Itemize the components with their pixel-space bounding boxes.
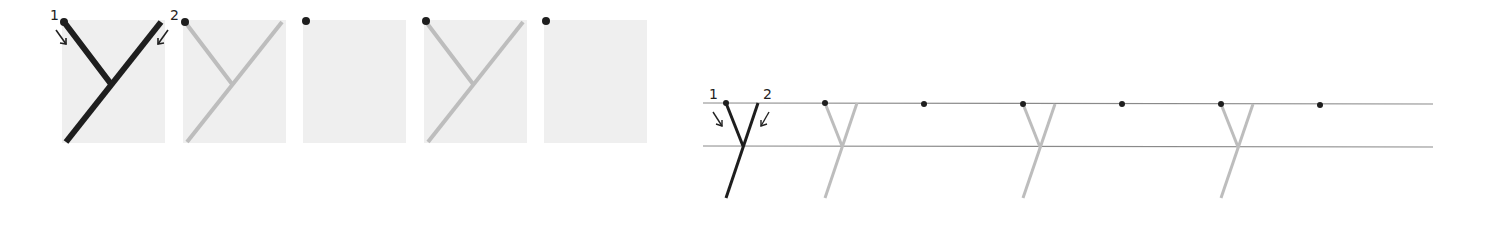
- start-dot-panel-4: [422, 17, 430, 25]
- mid-guideline: [703, 146, 1433, 147]
- row-start-dot-3: [921, 101, 927, 107]
- arrow-icon-stroke-2: [158, 30, 168, 44]
- start-dot-panel-5: [542, 17, 550, 25]
- row-start-dot-7: [1317, 102, 1323, 108]
- trace-letter-y-1: [185, 22, 282, 142]
- row-stroke-label-1: 1: [709, 87, 718, 101]
- row-start-dot-4: [1020, 101, 1026, 107]
- row-trace-letter-y-2: [1023, 104, 1055, 198]
- row-start-dot-1: [723, 100, 729, 106]
- arrow-icon-stroke-1: [56, 30, 66, 44]
- row-stroke-label-2: 2: [763, 87, 772, 101]
- row-start-dot-6: [1218, 101, 1224, 107]
- start-dot-panel-3: [302, 17, 310, 25]
- stroke-label-1: 1: [50, 8, 59, 22]
- row-trace-letter-y-1: [825, 103, 857, 198]
- row-arrow-icon-stroke-2: [761, 112, 769, 126]
- top-guideline: [703, 103, 1433, 104]
- strokes-layer: [0, 0, 1485, 227]
- start-dot-panel-2: [181, 18, 189, 26]
- model-letter-y: [64, 22, 161, 142]
- row-trace-letter-y-3: [1221, 104, 1253, 198]
- start-dot-panel-1: [60, 18, 68, 26]
- row-arrow-icon-stroke-1: [713, 112, 722, 126]
- row-model-letter-y: [726, 103, 758, 198]
- stroke-label-2: 2: [170, 8, 179, 22]
- row-start-dot-2: [822, 100, 828, 106]
- trace-letter-y-2: [426, 22, 523, 142]
- row-start-dot-5: [1119, 101, 1125, 107]
